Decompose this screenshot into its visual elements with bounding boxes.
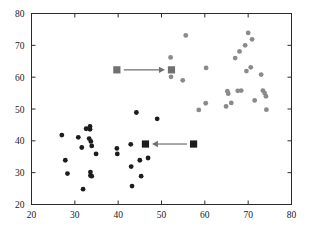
y-axis-ticks (32, 14, 292, 205)
x-tick-label: 20 (27, 210, 37, 220)
data-point (137, 158, 142, 163)
data-point (146, 156, 151, 161)
scatter-series-cluster-gray (168, 31, 269, 113)
gray-square-target (168, 66, 175, 73)
dark-square-source (190, 140, 197, 147)
data-point (248, 65, 253, 70)
x-tick-label: 70 (243, 210, 253, 220)
data-point (226, 91, 231, 96)
y-tick-label: 30 (15, 168, 25, 178)
data-point (250, 37, 255, 42)
data-point (239, 88, 244, 93)
data-point (128, 142, 133, 147)
y-tick-label: 60 (15, 73, 25, 83)
data-point (264, 94, 269, 99)
y-tick-label: 40 (15, 136, 25, 146)
data-point (129, 164, 134, 169)
data-point (79, 145, 84, 150)
data-point (115, 151, 120, 156)
x-tick-label: 30 (70, 210, 80, 220)
x-tick-label: 50 (157, 210, 167, 220)
data-point (59, 133, 64, 138)
data-point (196, 108, 201, 113)
y-tick-label: 70 (15, 41, 25, 51)
data-point (130, 184, 135, 189)
data-point (246, 31, 251, 36)
dark-square-target (142, 140, 149, 147)
data-point (243, 43, 248, 48)
data-point (224, 104, 229, 109)
axis-frame (32, 14, 292, 205)
scatter-plot-canvas: 20304050607080 20304050607080 (0, 0, 309, 237)
data-point (114, 146, 119, 151)
data-point (76, 135, 81, 140)
x-tick-label: 80 (287, 210, 297, 220)
x-axis-ticks (32, 14, 292, 205)
annotation-arrows (124, 67, 187, 148)
data-point (94, 151, 99, 156)
gray-square-source (113, 66, 120, 73)
data-point (139, 174, 144, 179)
data-point (89, 144, 94, 149)
data-point (169, 74, 174, 79)
data-point (88, 139, 93, 144)
y-tick-label: 80 (15, 9, 25, 19)
data-point (65, 171, 70, 176)
data-point (63, 158, 68, 163)
x-tick-label: 40 (113, 210, 123, 220)
data-point (204, 66, 209, 71)
data-point (168, 55, 173, 60)
y-axis-tick-labels: 20304050607080 (15, 9, 25, 210)
x-axis-tick-labels: 20304050607080 (27, 210, 297, 220)
data-point (244, 69, 249, 74)
scatter-plot-figure: 20304050607080 20304050607080 (0, 0, 309, 237)
arrow-lower-leftward-head (152, 141, 158, 147)
data-point (229, 101, 234, 106)
data-point (180, 78, 185, 83)
data-point (81, 187, 86, 192)
data-point (233, 56, 238, 61)
data-point (183, 33, 188, 38)
data-point (88, 127, 93, 132)
data-point (89, 174, 94, 179)
data-point (264, 107, 269, 112)
scatter-series-cluster-dark (59, 110, 159, 192)
data-point (155, 116, 160, 121)
data-point (252, 98, 257, 103)
y-tick-label: 50 (15, 105, 25, 115)
data-point (237, 49, 242, 54)
y-tick-label: 20 (15, 200, 25, 210)
data-point (134, 110, 139, 115)
x-tick-label: 60 (200, 210, 210, 220)
annotation-squares (113, 66, 197, 147)
data-point (203, 101, 208, 106)
arrow-upper-rightward-head (159, 67, 165, 73)
data-point (259, 72, 264, 77)
